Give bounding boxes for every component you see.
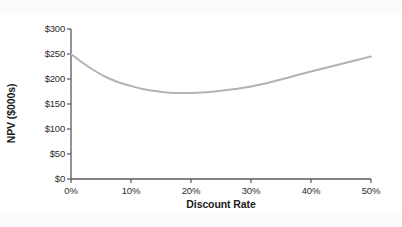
axis-lines	[71, 29, 371, 179]
x-axis-tick-label: 20%	[171, 185, 211, 196]
x-axis-title: Discount Rate	[71, 198, 371, 210]
y-axis-tick-label: $50	[29, 148, 65, 159]
y-axis-tick-label: $300	[29, 23, 65, 34]
x-axis-tick-label: 0%	[51, 185, 91, 196]
x-axis-tick-label: 40%	[291, 185, 331, 196]
y-axis-tick-label: $100	[29, 123, 65, 134]
x-axis-title-text: Discount Rate	[186, 198, 255, 210]
y-axis-title: NPV ($000s)	[14, 0, 34, 227]
series-line-npv	[71, 54, 371, 93]
y-axis-tick-label: $250	[29, 48, 65, 59]
y-axis-tick-label: $0	[29, 173, 65, 184]
npv-discount-rate-chart: $0$50$100$150$200$250$300 0%10%20%30%40%…	[0, 0, 402, 227]
x-axis-tick-label: 50%	[351, 185, 391, 196]
y-axis-title-text: NPV ($000s)	[5, 84, 17, 144]
y-axis-tick-label: $200	[29, 73, 65, 84]
x-axis-tick-label: 10%	[111, 185, 151, 196]
x-axis-tick-label: 30%	[231, 185, 271, 196]
data-series-group	[71, 54, 371, 93]
y-axis-tick-label: $150	[29, 98, 65, 109]
